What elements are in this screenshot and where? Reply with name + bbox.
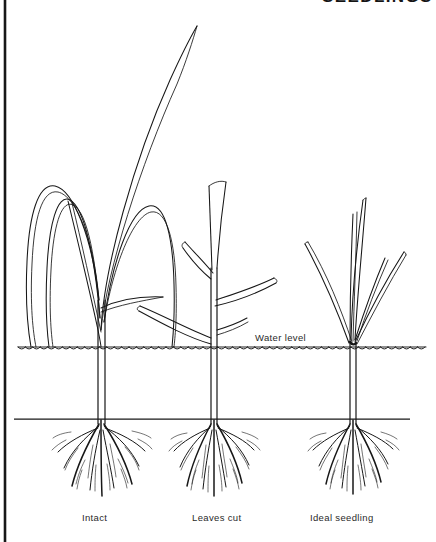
plant-cut-leaf-center [209,181,226,270]
seedling-figure: SEEDLINGS [0,0,436,542]
water-level-label: Water level [255,332,306,343]
plant-cut-leaf-upper-left [182,242,213,279]
plant-ideal-stem [350,342,356,424]
figure-title: SEEDLINGS [322,0,433,6]
plant-cut-stem [211,268,217,424]
plant-leaves-cut-label: Leaves cut [192,512,241,523]
plant-cut-leaf-lower-right [217,318,248,335]
figure-title-group: SEEDLINGS [322,0,433,6]
plant-leaves-cut: Leaves cut [137,181,277,523]
plant-ideal-leaf-left [305,242,352,343]
plant-intact-roots [52,420,152,496]
plant-ideal-leaf-right [355,252,406,344]
plant-intact-leaf-tall [101,26,197,330]
plant-ideal-roots [308,420,399,494]
plant-ideal-seedling: Ideal seedling [305,198,406,523]
plant-cut-leaf-mid-right [215,278,277,306]
water-level-line [18,347,426,349]
plant-intact-leaf-low-right [101,297,163,312]
seedling-illustration-canvas: SEEDLINGS [0,0,436,542]
plant-ideal-crown [350,342,356,344]
plant-ideal-seedling-label: Ideal seedling [310,512,374,523]
plant-intact-label: Intact [82,512,107,523]
plant-cut-roots [169,420,260,496]
plant-intact-leaf-right-arch [104,206,176,347]
